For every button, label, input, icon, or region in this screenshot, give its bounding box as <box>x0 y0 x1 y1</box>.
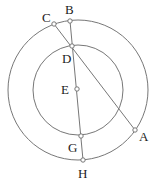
label-b: B <box>65 2 74 17</box>
point-e <box>75 87 79 91</box>
segment-ca <box>54 24 135 130</box>
label-e: E <box>61 82 69 97</box>
point-g <box>79 134 83 138</box>
geometry-diagram: CBDEGHA <box>0 0 156 184</box>
point-b <box>68 19 72 23</box>
point-c <box>52 22 56 26</box>
label-c: C <box>42 10 51 25</box>
point-d <box>70 44 74 48</box>
label-a: A <box>139 129 149 144</box>
label-d: D <box>62 51 71 66</box>
point-h <box>81 158 85 162</box>
point-a <box>133 128 137 132</box>
label-h: H <box>78 166 87 181</box>
label-g: G <box>68 140 77 155</box>
